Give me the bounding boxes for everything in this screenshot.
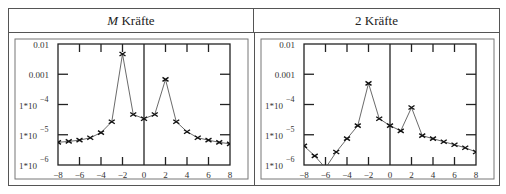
y-tick-label: 0.001 [275,70,295,80]
x-tick-label: 2 [409,170,414,180]
data-point-x-marker [376,117,382,121]
y-tick-label: 0.01 [279,40,295,50]
data-point-x-marker [98,131,104,135]
data-point-x-marker [333,150,339,154]
x-tick-label: 8 [474,170,479,180]
data-point-x-marker [184,130,190,134]
data-point-x-marker [312,154,318,158]
data-point-x-marker [409,106,415,110]
data-point-x-marker [206,138,212,142]
y-tick-label: 1*10 [265,131,284,141]
results-table: M Kräfte 2 Kräfte 0.010.0011*10−41*10−51… [8,8,500,186]
data-point-x-marker [430,137,436,141]
x-tick-label: −4 [342,170,352,180]
y-tick-exponent: −6 [40,155,49,164]
y-tick-label: 0.001 [29,70,49,80]
y-tick-exponent: −4 [40,95,49,104]
y-tick-label: 1*10 [19,101,38,111]
y-tick-label: 1*10 [19,131,38,141]
data-point-x-marker [195,136,201,140]
y-tick-exponent: −4 [286,95,295,104]
header-2-label: 2 Kräfte [355,13,398,29]
chart-2-kraefte: 0.010.0011*10−41*10−51*10−6−8−6−4−202468 [255,33,500,185]
header-2-kraefte: 2 Kräfte [254,9,499,33]
chart-m-kraefte: 0.010.0011*10−41*10−51*10−6−8−6−4−202468 [9,33,254,185]
x-tick-label: −6 [321,170,331,180]
data-point-x-marker [452,143,458,147]
data-point-x-marker [87,136,93,140]
x-tick-label: 0 [388,170,393,180]
y-tick-label: 0.01 [33,40,49,50]
x-tick-label: −8 [299,170,309,180]
x-tick-label: 6 [206,170,211,180]
data-point-x-marker [152,112,158,116]
x-tick-label: 0 [142,170,147,180]
chart-frame [261,39,494,179]
x-tick-label: −4 [96,170,106,180]
x-tick-label: −8 [53,170,63,180]
y-tick-label: 1*10 [265,101,284,111]
y-tick-exponent: −6 [286,155,295,164]
header-m-symbol: M [107,13,118,29]
data-point-x-marker [419,134,425,138]
y-tick-label: 1*10 [19,161,38,171]
x-tick-label: 4 [185,170,190,180]
x-tick-label: 8 [228,170,233,180]
chart-cell-2-kraefte: 0.010.0011*10−41*10−51*10−6−8−6−4−202468 [255,33,500,185]
data-point-x-marker [344,137,350,141]
x-tick-label: −6 [75,170,85,180]
x-tick-label: 6 [452,170,457,180]
y-tick-label: 1*10 [265,161,284,171]
chart-frame [15,39,248,179]
x-tick-label: −2 [118,170,128,180]
x-tick-label: −2 [364,170,374,180]
y-tick-exponent: −5 [40,125,49,134]
data-point-x-marker [462,146,468,150]
x-tick-label: 4 [431,170,436,180]
data-point-x-marker [398,129,404,133]
header-m-kraefte: M Kräfte [9,9,254,33]
data-point-x-marker [441,140,447,144]
y-tick-exponent: −5 [286,125,295,134]
chart-cell-m-kraefte: 0.010.0011*10−41*10−51*10−6−8−6−4−202468 [9,33,254,185]
x-tick-label: 2 [163,170,168,180]
header-m-label: Kräfte [118,13,154,29]
